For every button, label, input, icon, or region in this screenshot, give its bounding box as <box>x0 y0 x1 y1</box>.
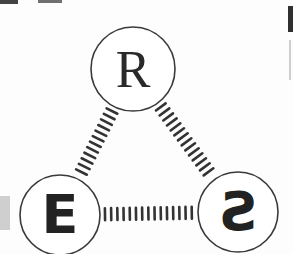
edge-rung <box>96 131 107 136</box>
node-label: S <box>219 180 258 243</box>
edge-rung <box>193 153 203 160</box>
edge-rung <box>76 169 87 174</box>
edge-rung <box>163 113 173 120</box>
artifact-left-shadow <box>0 196 10 230</box>
edge-rung <box>79 164 90 169</box>
edge-rung <box>82 158 93 163</box>
edge-rung <box>182 138 192 145</box>
diagram-canvas: RES <box>0 0 293 254</box>
edge-rung <box>98 125 109 130</box>
artifact-top-left <box>0 0 18 4</box>
node-label: E <box>42 183 79 246</box>
node-label: R <box>116 41 151 98</box>
triangle-diagram: RES <box>0 0 293 254</box>
edge-rung <box>200 163 210 170</box>
edge-rung <box>156 103 166 110</box>
edge-rung <box>160 108 170 115</box>
edge-rung <box>104 114 115 119</box>
edge-e-s <box>105 207 192 220</box>
edge-rung <box>174 128 184 135</box>
edge-rung <box>93 136 104 141</box>
node-r: R <box>91 27 175 111</box>
edge-rung <box>101 119 112 124</box>
edge-rung <box>178 133 188 140</box>
edge-rung <box>189 148 199 155</box>
edge-rung <box>87 147 98 152</box>
artifact-right-line <box>289 40 291 80</box>
edge-rung <box>196 158 206 165</box>
edge-rung <box>204 168 214 175</box>
artifact-right-edge <box>288 6 293 32</box>
edge-rung <box>185 143 195 150</box>
edge-rung <box>84 153 95 158</box>
artifact-top <box>38 0 62 3</box>
edge-r-s <box>156 103 213 175</box>
node-e: E <box>20 175 100 254</box>
edge-r-e <box>76 108 117 174</box>
edge-rung <box>171 123 181 130</box>
node-s: S <box>198 172 278 252</box>
edge-rung <box>107 108 118 113</box>
edge-rung <box>167 118 177 125</box>
edge-rung <box>90 142 101 147</box>
